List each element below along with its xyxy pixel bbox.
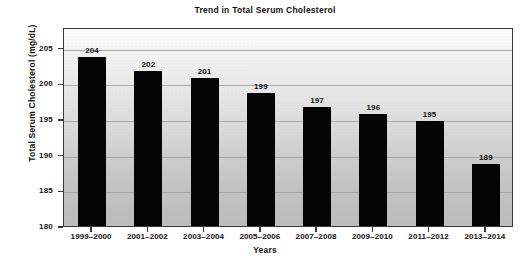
gridline [64,50,512,51]
y-tick-mark [58,226,63,228]
bar [303,107,331,227]
x-tick-label: 1999–2000 [61,232,121,241]
gridline [64,157,512,158]
y-tick-mark [58,155,63,157]
chart-figure: Trend in Total Serum Cholesterol 2042022… [0,0,530,269]
bar-value-label: 201 [182,67,228,76]
plot-texture-overlay [64,29,512,226]
y-tick-mark [58,84,63,86]
x-tick-label: 2003–2004 [174,232,234,241]
bar [191,78,219,227]
x-tick-label: 2013–2014 [455,232,515,241]
y-tick-mark [58,119,63,121]
y-axis-title: Total Serum Cholesterol (mg/dL) [27,0,37,188]
bar-value-label: 197 [294,96,340,105]
bar-value-label: 195 [407,110,453,119]
bar-value-label: 202 [125,60,171,69]
x-tick-label: 2011–2012 [399,232,459,241]
gridline [64,121,512,122]
bar [416,121,444,227]
x-tick-label: 2007–2008 [286,232,346,241]
x-tick-label: 2009–2010 [342,232,402,241]
y-tick-mark [58,48,63,50]
gridline [64,192,512,193]
bar [472,164,500,227]
plot-area: 204202201199197196195189 [63,28,513,227]
bar-value-label: 189 [463,153,509,162]
bar [359,114,387,227]
bar [78,57,106,227]
x-tick-label: 2001–2002 [117,232,177,241]
bar-value-label: 196 [350,103,396,112]
gridline [64,85,512,86]
bar [134,71,162,227]
bar-value-label: 199 [238,82,284,91]
bar-value-label: 204 [69,46,115,55]
x-tick-label: 2005–2006 [230,232,290,241]
y-tick-label: 180 [19,222,53,231]
bar [247,93,275,228]
y-tick-mark [58,191,63,193]
chart-title: Trend in Total Serum Cholesterol [0,5,530,15]
x-axis-title: Years [0,245,530,255]
